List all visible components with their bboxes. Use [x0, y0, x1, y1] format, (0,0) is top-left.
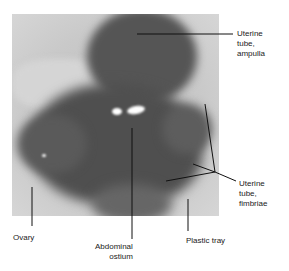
- label-abdominal-ostium: Abdominal ostium: [95, 242, 133, 262]
- label-ovary: Ovary: [13, 233, 34, 243]
- label-plastic-tray: Plastic tray: [186, 236, 225, 246]
- label-ampulla: Uterine tube, ampulla: [237, 29, 265, 59]
- label-fimbriae: Uterine tube, fimbriae: [239, 179, 267, 209]
